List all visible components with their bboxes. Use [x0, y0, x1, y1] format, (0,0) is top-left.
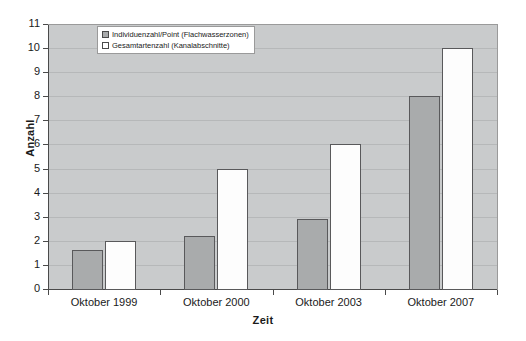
y-tick-mark: [43, 48, 48, 49]
y-tick-mark: [43, 193, 48, 194]
y-tick-label: 5: [0, 162, 40, 174]
x-tick-label: Oktober 1999: [48, 296, 160, 308]
gridline: [49, 72, 498, 73]
y-tick-mark: [43, 265, 48, 266]
y-tick-mark: [43, 144, 48, 145]
x-tick-mark: [497, 290, 498, 295]
y-tick-label: 7: [0, 113, 40, 125]
legend-swatch-filled-gray-icon: [102, 31, 109, 38]
y-tick-label: 8: [0, 89, 40, 101]
bar: [409, 96, 440, 290]
y-tick-mark: [43, 24, 48, 25]
plot-frame-top: [48, 24, 498, 25]
x-tick-mark: [48, 290, 49, 295]
y-tick-label: 9: [0, 65, 40, 77]
bar: [297, 219, 328, 290]
y-tick-mark: [43, 72, 48, 73]
y-tick-label: 10: [0, 41, 40, 53]
y-tick-label: 3: [0, 210, 40, 222]
y-tick-mark: [43, 120, 48, 121]
bar: [217, 169, 248, 290]
bar: [105, 241, 136, 290]
bar-chart: Anzahl 01234567891011 Oktober 1999Oktobe…: [0, 0, 526, 341]
x-tick-mark: [160, 290, 161, 295]
y-tick-label: 6: [0, 137, 40, 149]
y-tick-mark: [43, 169, 48, 170]
legend-item-label: Gesamtartenzahl (Kanalabschnitte): [112, 41, 230, 50]
y-tick-mark: [43, 217, 48, 218]
y-tick-mark: [43, 96, 48, 97]
x-tick-label: Oktober 2000: [160, 296, 272, 308]
x-tick-mark: [385, 290, 386, 295]
legend-item-label: Individuenzahl/Point (Flachwasserzonen): [112, 30, 249, 39]
legend: Individuenzahl/Point (Flachwasserzonen) …: [97, 26, 255, 54]
legend-item: Individuenzahl/Point (Flachwasserzonen): [102, 30, 249, 39]
plot-frame-right: [497, 24, 498, 290]
y-tick-mark: [43, 241, 48, 242]
y-tick-label: 0: [0, 282, 40, 294]
y-tick-label: 11: [0, 17, 40, 29]
x-tick-label: Oktober 2007: [385, 296, 497, 308]
bar: [442, 48, 473, 290]
x-tick-mark: [273, 290, 274, 295]
y-tick-label: 2: [0, 234, 40, 246]
legend-swatch-white-icon: [102, 42, 109, 49]
y-tick-label: 4: [0, 186, 40, 198]
y-tick-label: 1: [0, 258, 40, 270]
bar: [184, 236, 215, 290]
bar: [72, 250, 103, 290]
legend-item: Gesamtartenzahl (Kanalabschnitte): [102, 41, 249, 50]
bar: [330, 144, 361, 290]
x-tick-label: Oktober 2003: [273, 296, 385, 308]
x-axis-title: Zeit: [0, 314, 526, 326]
